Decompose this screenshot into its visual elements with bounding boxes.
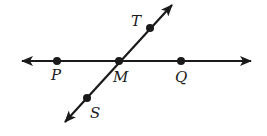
point-M	[115, 57, 123, 65]
point-S	[83, 94, 91, 102]
label-S: S	[90, 104, 100, 122]
point-P	[53, 57, 61, 65]
label-Q: Q	[175, 68, 187, 86]
label-P: P	[50, 66, 62, 84]
label-T: T	[131, 12, 142, 30]
label-M: M	[112, 68, 129, 86]
point-T	[146, 24, 154, 32]
point-Q	[177, 57, 185, 65]
intersecting-lines-diagram: P M Q T S	[0, 0, 267, 136]
